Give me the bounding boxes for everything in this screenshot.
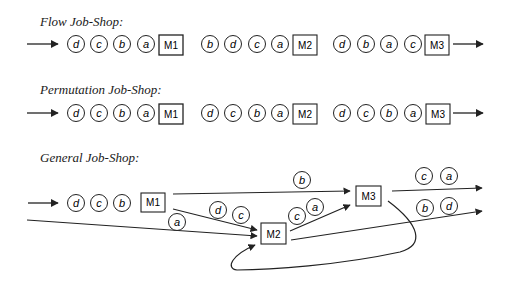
svg-text:d: d: [73, 107, 80, 119]
svg-text:d: d: [230, 38, 237, 50]
svg-text:c: c: [96, 38, 102, 50]
perm-machine-m3: M3: [426, 104, 450, 124]
svg-text:d: d: [73, 197, 80, 209]
svg-text:c: c: [254, 38, 260, 50]
general-m1-queue: d c b: [68, 195, 131, 212]
perm-m2-queue: d c b a: [202, 105, 289, 122]
edge-m3-out: [392, 188, 482, 191]
svg-text:c: c: [410, 38, 416, 50]
general-machine-m2: M2: [261, 223, 286, 244]
svg-text:a: a: [143, 38, 149, 50]
svg-text:a: a: [312, 201, 318, 213]
svg-text:c: c: [96, 107, 102, 119]
flow-m1-queue: d c b a: [68, 36, 155, 53]
svg-text:M3: M3: [430, 40, 444, 51]
svg-text:M2: M2: [298, 40, 312, 51]
svg-text:b: b: [119, 107, 125, 119]
perm-machine-m1: M1: [159, 104, 183, 124]
svg-text:b: b: [119, 38, 125, 50]
svg-text:a: a: [174, 216, 180, 228]
svg-text:d: d: [215, 204, 222, 216]
svg-text:a: a: [410, 107, 416, 119]
svg-text:b: b: [299, 174, 305, 186]
svg-text:M1: M1: [146, 197, 160, 208]
flow-machine-m3: M3: [425, 35, 449, 55]
flow-machine-m2: M2: [293, 35, 317, 55]
svg-text:a: a: [143, 107, 149, 119]
job-shop-diagram: d c b a M1 b d c a M2 d b a c M3: [0, 0, 506, 285]
svg-text:b: b: [386, 107, 392, 119]
svg-text:c: c: [238, 209, 244, 221]
svg-text:b: b: [422, 202, 428, 214]
svg-text:b: b: [254, 107, 260, 119]
svg-text:d: d: [73, 38, 80, 50]
svg-text:M3: M3: [362, 191, 376, 202]
svg-text:M1: M1: [164, 40, 178, 51]
svg-text:M2: M2: [267, 229, 281, 240]
svg-text:d: d: [207, 107, 214, 119]
svg-text:c: c: [96, 197, 102, 209]
svg-text:c: c: [363, 107, 369, 119]
svg-text:M2: M2: [298, 109, 312, 120]
svg-text:a: a: [446, 170, 452, 182]
perm-m3-queue: d c b a: [334, 105, 422, 122]
permutation-row: d c b a M1 d c b a M2 d c b a M3: [27, 104, 483, 124]
edge-m2-out: [291, 211, 482, 240]
flow-m3-queue: d b a c: [334, 36, 422, 53]
flow-row: d c b a M1 b d c a M2 d b a c M3: [27, 35, 483, 55]
general-row: d c b M1 M2 M3 b d c a c a: [27, 168, 482, 271]
svg-text:b: b: [119, 197, 125, 209]
svg-text:c: c: [230, 107, 236, 119]
flow-m2-queue: b d c a: [202, 36, 289, 53]
svg-text:M3: M3: [431, 109, 445, 120]
svg-text:b: b: [363, 38, 369, 50]
svg-text:a: a: [277, 107, 283, 119]
flow-machine-m1: M1: [159, 35, 183, 55]
svg-text:b: b: [207, 38, 213, 50]
edge-input-m2: [27, 220, 257, 236]
svg-text:d: d: [339, 38, 346, 50]
general-machine-m3: M3: [356, 186, 381, 206]
svg-text:a: a: [386, 38, 392, 50]
svg-text:M1: M1: [164, 109, 178, 120]
svg-text:d: d: [339, 107, 346, 119]
perm-m1-queue: d c b a: [68, 105, 155, 122]
edge-m1-m3: [173, 191, 350, 194]
perm-machine-m2: M2: [293, 104, 317, 124]
svg-text:d: d: [446, 200, 453, 212]
svg-text:c: c: [294, 210, 300, 222]
general-machine-m1: M1: [141, 193, 165, 212]
svg-text:c: c: [421, 170, 427, 182]
svg-text:a: a: [277, 38, 283, 50]
